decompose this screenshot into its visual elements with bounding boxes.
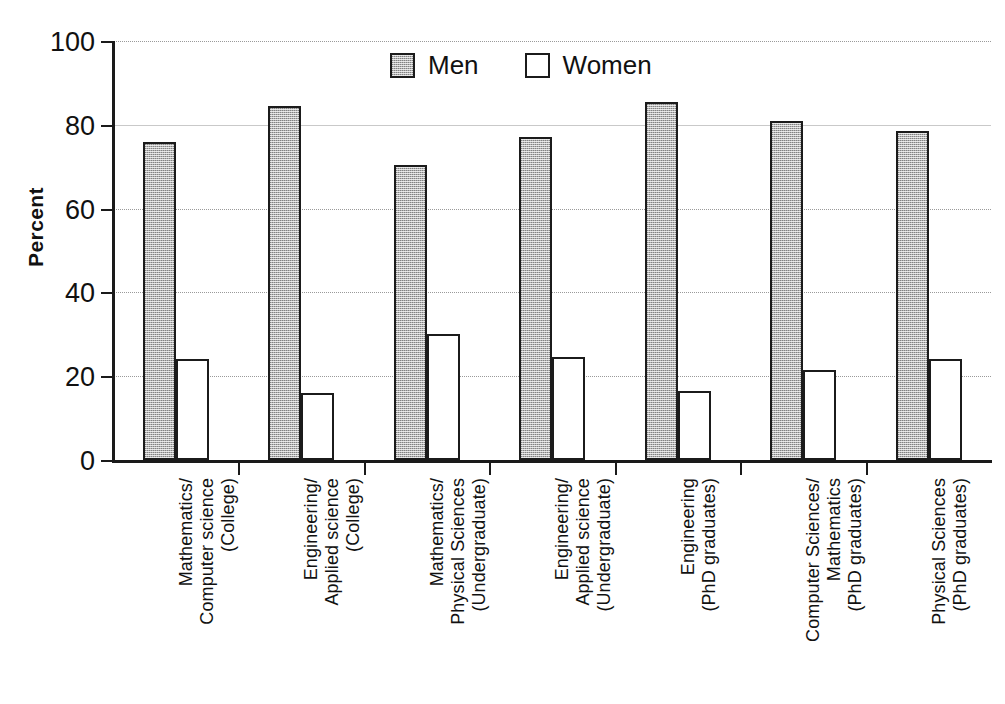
bar-women-group-2 xyxy=(301,393,334,460)
women-swatch-icon xyxy=(525,53,550,78)
bar-women-group-5 xyxy=(678,391,711,460)
bar-women-group-6 xyxy=(803,370,836,460)
x-axis-line xyxy=(112,460,992,463)
y-tick-label-0: 0 xyxy=(80,446,95,476)
legend-label-men: Men xyxy=(428,52,479,78)
category-label-5: Engineering (PhD graduates) xyxy=(678,478,720,688)
bar-women-group-3 xyxy=(427,334,460,460)
category-label-2: Engineering/ Applied science (College) xyxy=(301,478,364,688)
y-axis-line xyxy=(112,41,115,461)
bar-men-group-2 xyxy=(268,106,301,460)
chart-legend: Men Women xyxy=(390,52,652,78)
category-label-6: Computer Sciences/ Mathematics (PhD grad… xyxy=(803,478,866,688)
x-tick-1 xyxy=(238,461,240,475)
bar-men-group-3 xyxy=(394,165,427,460)
y-tick-label-20: 20 xyxy=(65,362,95,392)
legend-item-women: Women xyxy=(525,52,652,78)
y-tick-label-100: 100 xyxy=(50,27,95,57)
bar-women-group-7 xyxy=(929,359,962,460)
bar-chart-figure: Percent 020406080100 Men Women Mathemati… xyxy=(0,0,1005,704)
category-label-4: Engineering/ Applied science (Undergradu… xyxy=(552,478,615,688)
legend-label-women: Women xyxy=(563,52,652,78)
x-tick-2 xyxy=(364,461,366,475)
bar-men-group-5 xyxy=(645,102,678,460)
x-tick-3 xyxy=(489,461,491,475)
category-label-3: Mathematics/ Physical Sciences (Undergra… xyxy=(427,478,490,688)
y-tick-label-40: 40 xyxy=(65,278,95,308)
men-swatch-icon xyxy=(390,53,415,78)
category-label-7: Physical Sciences (PhD graduates) xyxy=(929,478,971,688)
y-tick-label-60: 60 xyxy=(65,195,95,225)
bar-men-group-7 xyxy=(896,131,929,460)
x-tick-4 xyxy=(615,461,617,475)
bar-women-group-1 xyxy=(176,359,209,460)
y-axis-title: Percent xyxy=(24,167,48,287)
bar-men-group-6 xyxy=(770,121,803,460)
x-tick-6 xyxy=(866,461,868,475)
bar-men-group-4 xyxy=(519,137,552,460)
legend-item-men: Men xyxy=(390,52,479,78)
bar-men-group-1 xyxy=(143,142,176,460)
bar-women-group-4 xyxy=(552,357,585,460)
gridline-100 xyxy=(113,41,991,42)
category-label-1: Mathematics/ Computer science (College) xyxy=(176,478,239,688)
y-tick-label-80: 80 xyxy=(65,111,95,141)
gridline-80 xyxy=(113,125,991,126)
x-tick-5 xyxy=(740,461,742,475)
plot-area: 020406080100 xyxy=(113,41,991,460)
